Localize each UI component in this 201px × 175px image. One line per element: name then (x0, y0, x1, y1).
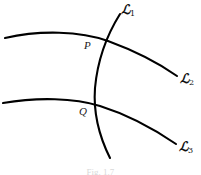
figure-caption: Fig. 1.7 (0, 168, 201, 175)
curve-l1-path (95, 14, 120, 158)
curve-l3-path (3, 99, 176, 144)
figure-container: ℒ1 ℒ2 ℒ3 P Q Fig. 1.7 (0, 0, 201, 175)
curve-l2-path (5, 33, 177, 76)
curve-label-l3: ℒ3 (179, 140, 193, 155)
curve-label-l2-symbol: ℒ (180, 71, 189, 86)
point-label-q: Q (79, 106, 87, 117)
curve-label-l1-symbol: ℒ (121, 2, 130, 17)
point-label-p: P (84, 40, 91, 51)
curve-label-l1: ℒ1 (121, 3, 135, 18)
curve-label-l2-subscript: 2 (189, 78, 194, 87)
curve-label-l3-subscript: 3 (188, 146, 193, 155)
figure-caption-text: Fig. 1.7 (0, 168, 201, 175)
figure-drawing-canvas (0, 0, 201, 175)
curve-label-l2: ℒ2 (180, 72, 194, 87)
curve-label-l1-subscript: 1 (130, 9, 135, 18)
curve-label-l3-symbol: ℒ (179, 139, 188, 154)
